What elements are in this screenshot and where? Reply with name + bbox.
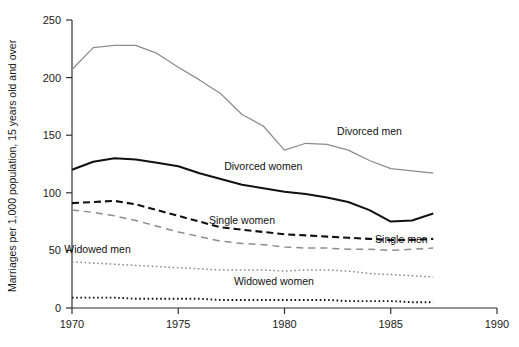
y-tick-label: 50 xyxy=(49,244,61,256)
series-label-single-men: Single men xyxy=(375,233,428,245)
y-axis-title-text: Marriages per 1,000 population, 15 years… xyxy=(6,39,18,292)
y-tick-label: 100 xyxy=(43,187,61,199)
series-label-single-women: Single women xyxy=(209,214,275,226)
series-label-divorced-women: Divorced women xyxy=(224,160,302,172)
series-label-divorced-men: Divorced men xyxy=(337,125,402,137)
series-label-widowed-women: Widowed women xyxy=(234,275,314,287)
x-tick-label: 1970 xyxy=(60,318,84,330)
x-tick-label: 1975 xyxy=(166,318,190,330)
y-tick-label: 250 xyxy=(43,14,61,26)
chart-background xyxy=(0,0,519,347)
y-tick-label: 200 xyxy=(43,72,61,84)
y-tick-label: 150 xyxy=(43,129,61,141)
series-label-widowed-men: Widowed men xyxy=(64,243,131,255)
x-tick-label: 1985 xyxy=(379,318,403,330)
chart-container: Marriages per 1,000 population, 15 years… xyxy=(0,0,519,347)
line-chart: Marriages per 1,000 population, 15 years… xyxy=(0,0,519,347)
y-tick-label: 0 xyxy=(55,302,61,314)
x-tick-label: 1980 xyxy=(272,318,296,330)
x-tick-label: 1990 xyxy=(485,318,509,330)
y-axis-title: Marriages per 1,000 population, 15 years… xyxy=(6,39,18,292)
